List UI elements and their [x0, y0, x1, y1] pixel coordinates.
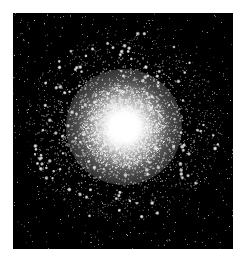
image-alt-text: Black-and-white astronomical photograph …: [0, 0, 1, 1]
star-cluster-image: [13, 13, 233, 249]
photo-page: Black-and-white astronomical photograph …: [0, 0, 246, 263]
photographic-plate: [13, 13, 233, 249]
